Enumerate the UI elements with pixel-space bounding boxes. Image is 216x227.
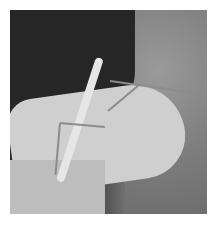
wrist <box>10 160 105 214</box>
mantis-photo <box>10 10 207 214</box>
